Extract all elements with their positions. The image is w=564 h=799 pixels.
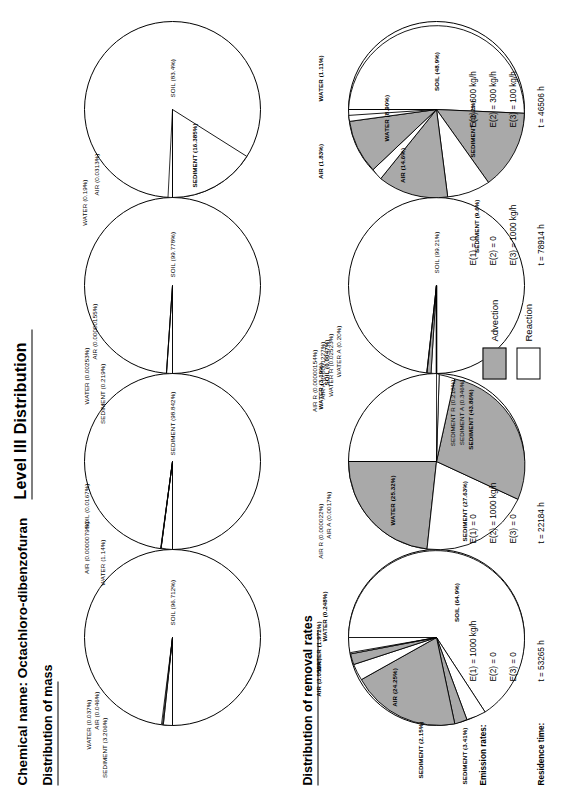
section-title-rates: Distribution of removal rates — [300, 615, 314, 785]
emission-value: E(1) = 0 — [468, 514, 477, 543]
pie-label: AIR A (0.0001227%) — [318, 341, 325, 451]
pie-label: SEDIMENT R (0.218%) — [448, 379, 455, 465]
section-mass-underline — [57, 681, 58, 785]
emission-value: E(2) = 0 — [488, 652, 497, 681]
legend-swatch-reaction — [516, 347, 540, 379]
residence-time-value: t = 78914 h — [536, 224, 545, 265]
residence-time-value: t = 53265 h — [536, 640, 545, 681]
pie-label: AIR (24.25%) — [390, 661, 397, 713]
pie-svg-rates-1 — [336, 537, 536, 737]
pie-label: SEDIMENT (2.15%) — [416, 721, 423, 793]
pie-label: WATER (8.90%) — [382, 97, 389, 141]
residence-time-label: Residence time: — [536, 722, 545, 785]
main-title-underline — [31, 329, 32, 499]
pie-label: SOIL (0.0167%) — [82, 483, 89, 555]
pie-label: WATER (0.19%) — [80, 179, 87, 251]
emission-value: E(2) = 300 kg/h — [488, 71, 497, 127]
pie-svg-rates-2 — [336, 361, 536, 561]
emission-rates-label: Emission rates: — [478, 724, 487, 785]
pie-label: SEDIMENT (16.385%) — [190, 141, 197, 187]
residence-time-value: t = 46506 h — [536, 86, 545, 127]
emission-value: E(2) = 1000 kg/h — [488, 482, 497, 543]
emission-value: E(3) = 1000 kg/h — [508, 204, 517, 265]
pie-label: AIR R (0.000022%) — [316, 503, 323, 591]
pie-label: SOIL (64.9%) — [452, 579, 459, 625]
pie-label: AIR R (0.00000154%) — [310, 349, 317, 459]
pie-label: WATER (1.11%) — [316, 57, 323, 101]
pie-label: WATER (1.14%) — [98, 539, 105, 611]
main-title: Level III Distribution — [11, 342, 29, 499]
pie-label: AIR (14.6%) — [398, 143, 405, 187]
screenshot-page: Chemical name: Octachloro-dibenzofuran L… — [0, 0, 564, 799]
legend-label-advection: Advection — [488, 299, 499, 341]
emission-value: E(3) = 100 kg/h — [508, 71, 517, 127]
pie-chart-rates-4: SEDIMENT (9.6%) AIR (14.6%) AIR (1.83%) … — [336, 9, 536, 209]
pie-label: SEDIMENT (98.842%) — [168, 391, 175, 455]
pie-svg-rates-4 — [336, 9, 536, 209]
pie-label: SEDIMENT (3.41%) — [460, 727, 467, 799]
pie-label: SEDIMENT (0.219%) — [98, 363, 105, 439]
pie-label: WATER A (0.20%) — [334, 325, 341, 435]
pie-chart-rates-1: SEDIMENT (3.41%) SEDIMENT (2.15%) AIR (2… — [336, 537, 536, 737]
pie-label: AIR (0.00000155%) — [90, 303, 97, 389]
pie-svg-mass-4 — [72, 9, 272, 209]
pie-label: WATER (0.037%) — [84, 699, 91, 771]
legend-swatch-advection — [482, 347, 506, 379]
pie-label: SEDIMENT A (0.346%) — [457, 379, 464, 465]
emission-value: E(1) = 1000 kg/h — [468, 620, 477, 681]
page-title: Chemical name: Octachloro-dibenzofuran — [14, 517, 29, 785]
pie-label: SEDIMENT (43.86%) — [466, 385, 473, 453]
emission-value: E(2) = 0 — [488, 236, 497, 265]
legend-label-reaction: Reaction — [522, 304, 533, 342]
pie-label: AIR (0.046%) — [92, 691, 99, 763]
pie-chart-mass-3: SEDIMENT (0.219%) WATER (0.00253%) AIR (… — [72, 185, 272, 385]
emission-value: E(3) = 0 — [508, 652, 517, 681]
pie-label: SEDIMENT (27.63%) — [460, 489, 467, 541]
pie-label: WATER (25.32%) — [388, 481, 395, 525]
pie-label: SOIL (48.9%) — [432, 51, 439, 91]
pie-chart-rates-2: AIR R (0.000022%) AIR A (0.0017%) WATER … — [336, 361, 536, 561]
pie-label: AIR (1.83%) — [316, 135, 323, 187]
section-title-mass: Distribution of mass — [40, 664, 54, 785]
residence-time-value: t = 22184 h — [536, 502, 545, 543]
emission-value: E(1) = 0 — [468, 236, 477, 265]
pie-chart-mass-4: WATER (0.19%) AIR (0.0313%) SEDIMENT (16… — [72, 9, 272, 209]
emission-value: E(1) = 600 kg/h — [468, 71, 477, 127]
pie-label: SOIL (96.712%) — [168, 579, 175, 625]
emission-value: E(3) = 0 — [508, 514, 517, 543]
pie-label: WATER (0.00253%) — [82, 347, 89, 423]
pie-label: AIR (0.0313%) — [92, 153, 99, 225]
pie-label: SOIL (83.4%) — [168, 59, 175, 97]
pie-label: WATER R (0.02523%) — [326, 333, 333, 443]
pie-label: SEDIMENT (3.206%) — [100, 717, 107, 789]
pie-svg-mass-3 — [72, 185, 272, 385]
pie-label: AIR A (0.0017%) — [324, 491, 331, 579]
pie-label: SOIL (99.778%) — [168, 231, 175, 277]
pie-label: WATER (0.248%) — [320, 595, 327, 641]
document-body: Chemical name: Octachloro-dibenzofuran L… — [0, 0, 564, 799]
pie-label: SOIL (99.21%) — [432, 231, 439, 273]
